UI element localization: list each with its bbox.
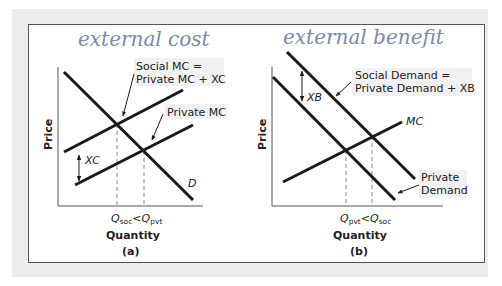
- panel-b-xb-label: XB: [306, 91, 322, 104]
- panel-a-demand-label: D: [188, 177, 196, 190]
- panel-a-social-mc-curve: [64, 90, 183, 152]
- panel-a-private-mc-label: Private MC: [167, 106, 226, 119]
- panel-a-y-axis-title: Price: [42, 119, 55, 150]
- handwriting-external-cost: external cost: [78, 27, 211, 51]
- panel-b-q-labels: Qpvt<Qsoc: [340, 212, 391, 226]
- panel-b-mc-curve: [283, 122, 402, 182]
- panel-a-social-mc-pointer: [123, 74, 134, 116]
- panel-b-caption: (b): [350, 245, 368, 258]
- panel-b-x-axis-title: Quantity: [333, 229, 387, 242]
- panel-b-private-demand-label-2: Demand: [421, 184, 468, 197]
- panel-b-private-demand-label-1: Private: [421, 171, 460, 184]
- panel-b-private-demand-pointer: [398, 185, 419, 193]
- panel-b-social-demand-label-1: Social Demand =: [355, 69, 450, 82]
- panel-b: XB Social Demand = Private Demand + XB M…: [256, 52, 475, 258]
- panel-b-y-axis-title: Price: [256, 119, 269, 150]
- panel-a-q-labels: Qsoc<Qpvt: [111, 212, 162, 226]
- panel-a-social-mc-label-1: Social MC =: [136, 60, 202, 73]
- panel-a-xc-label: XC: [84, 154, 100, 167]
- panel-a-private-mc-pointer: [152, 114, 163, 140]
- handwriting-external-benefit: external benefit: [283, 25, 445, 49]
- panel-a: XC Social MC = Private MC + XC Private M…: [42, 58, 227, 258]
- panel-b-mc-label: MC: [406, 115, 423, 128]
- panel-a-caption: (a): [122, 245, 139, 258]
- panel-a-social-mc-label-2: Private MC + XC: [136, 73, 226, 86]
- externality-diagram: external cost external benefit XC Social…: [0, 0, 502, 286]
- panel-b-social-demand-label-2: Private Demand + XB: [355, 82, 475, 95]
- panel-a-x-axis-title: Quantity: [106, 229, 160, 242]
- panel-b-social-demand-pointer: [336, 82, 351, 96]
